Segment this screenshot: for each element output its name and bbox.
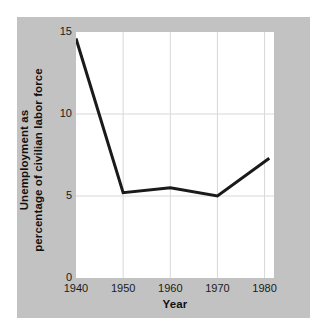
y-axis-title: Unemployment as percentage of civilian l…	[16, 37, 46, 283]
plot-area	[76, 32, 274, 278]
unemployment-line-series	[76, 32, 274, 278]
series-polyline	[76, 39, 269, 196]
chart-figure: 051015 19401950196019701980 Year Unemplo…	[0, 0, 326, 332]
y-tick-label-15: 15	[32, 26, 72, 37]
y-axis-title-line-1: Unemployment as	[17, 110, 31, 211]
y-axis-title-line-2: percentage of civilian labor force	[31, 68, 45, 252]
x-axis-title: Year	[76, 298, 274, 310]
x-tick-label-1980: 1980	[237, 282, 293, 294]
x-axis-tick-labels: 19401950196019701980	[76, 282, 274, 298]
